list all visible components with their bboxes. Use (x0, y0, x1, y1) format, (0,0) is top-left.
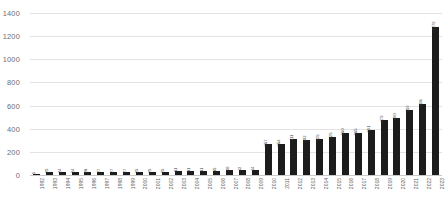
bar-wrapper: 490 (391, 118, 404, 175)
bar[interactable] (406, 110, 413, 175)
x-axis-label-cell: 1997 (94, 178, 107, 201)
x-axis-label-cell: 2012 (288, 178, 301, 201)
x-axis-label-cell: 1993 (43, 178, 56, 201)
bar-wrapper: 24 (56, 172, 69, 175)
bar[interactable] (393, 118, 400, 175)
bar-wrapper: 31 (197, 171, 210, 175)
x-axis-label-cell: 2013 (300, 178, 313, 201)
bar-wrapper: 264 (275, 144, 288, 175)
x-axis-label-cell: 2000 (133, 178, 146, 201)
bar[interactable] (265, 144, 272, 175)
bar-cell: 315 (313, 13, 326, 175)
bar-value-label: 264 (276, 140, 281, 147)
bar-wrapper: 44 (249, 170, 262, 175)
x-axis-label-cell: 2002 (159, 178, 172, 201)
x-axis-label-cell: 2006 (210, 178, 223, 201)
bar-cell: 44 (249, 13, 262, 175)
bar-wrapper: 365 (352, 133, 365, 175)
bar-cell: 27 (107, 13, 120, 175)
bar-wrapper: 360 (339, 133, 352, 175)
bar-wrapper: 311 (288, 139, 301, 175)
bars-container: 1252424282727272525253131313540424426726… (30, 13, 442, 175)
bar-value-label: 25 (44, 169, 49, 174)
x-axis-label-cell: 2020 (391, 178, 404, 201)
bar-wrapper: 25 (133, 172, 146, 175)
bar-value-label: 365 (353, 128, 358, 135)
bar[interactable] (368, 130, 375, 175)
bar[interactable] (432, 27, 439, 175)
bar-cell: 479 (378, 13, 391, 175)
x-axis-labels: 1992199319941995199619971998199920002001… (30, 178, 442, 201)
x-axis-label-cell: 2007 (223, 178, 236, 201)
bar-cell: 27 (94, 13, 107, 175)
bar-cell: 1 (30, 13, 43, 175)
y-axis-tick-label: 800 (0, 78, 20, 87)
x-axis-label-cell: 1998 (107, 178, 120, 201)
bar-value-label: 267 (263, 140, 268, 147)
bar[interactable] (303, 140, 310, 175)
bar-cell: 559 (403, 13, 416, 175)
bar-wrapper: 25 (43, 172, 56, 175)
bar-value-label: 302 (302, 136, 307, 143)
bar[interactable] (381, 120, 388, 175)
bar-value-label: 40 (225, 167, 230, 172)
bar-value-label: 311 (289, 135, 294, 142)
bar-wrapper: 27 (120, 172, 133, 175)
bar[interactable] (355, 133, 362, 175)
bar-cell: 264 (275, 13, 288, 175)
bar-cell: 618 (416, 13, 429, 175)
bar-value-label: 27 (96, 169, 101, 174)
bar-value-label: 27 (122, 169, 127, 174)
bar-value-label: 25 (160, 169, 165, 174)
x-axis-label-cell: 2017 (352, 178, 365, 201)
bar-wrapper: 267 (262, 144, 275, 175)
bar-value-label: 25 (147, 169, 152, 174)
bar-cell: 28 (82, 13, 95, 175)
bar[interactable] (329, 137, 336, 175)
bar-value-label: 1279 (431, 21, 436, 30)
bar-value-label: 479 (379, 115, 384, 122)
bar-value-label: 35 (212, 168, 217, 173)
bar-wrapper: 315 (313, 139, 326, 175)
bar-cell: 31 (185, 13, 198, 175)
bar-value-label: 44 (250, 167, 255, 172)
bar-wrapper: 40 (223, 170, 236, 175)
bar-wrapper: 31 (185, 171, 198, 175)
bar-wrapper: 31 (172, 171, 185, 175)
bar-cell: 302 (300, 13, 313, 175)
x-axis-label-cell: 1994 (56, 178, 69, 201)
bar-wrapper: 28 (82, 172, 95, 175)
bar-cell: 391 (365, 13, 378, 175)
bar-cell: 365 (352, 13, 365, 175)
bar-wrapper: 27 (107, 172, 120, 175)
bar-value-label: 24 (57, 169, 62, 174)
x-axis-label-cell: 2016 (339, 178, 352, 201)
bar-cell: 24 (69, 13, 82, 175)
x-axis-label-cell: 2003 (172, 178, 185, 201)
bar-cell: 42 (236, 13, 249, 175)
bar-wrapper: 25 (159, 172, 172, 175)
x-axis-label-cell: 2014 (313, 178, 326, 201)
bar[interactable] (278, 144, 285, 175)
x-axis-label-cell: 2022 (416, 178, 429, 201)
bar-wrapper: 35 (210, 171, 223, 175)
bar-value-label: 31 (186, 168, 191, 173)
plot-area: 0200400600800100012001400 12524242827272… (30, 13, 442, 175)
x-axis-label-cell: 2011 (275, 178, 288, 201)
y-axis-tick-label: 1200 (0, 32, 20, 41)
x-axis-label-cell: 2009 (249, 178, 262, 201)
bar-wrapper: 302 (300, 140, 313, 175)
bar[interactable] (342, 133, 349, 175)
bar[interactable] (290, 139, 297, 175)
y-axis-tick-label: 1400 (0, 9, 20, 18)
x-axis-tick-label: 2023 (439, 178, 445, 189)
bar-wrapper: 391 (365, 130, 378, 175)
bar[interactable] (316, 139, 323, 175)
bar-wrapper: 1279 (429, 27, 442, 175)
bar-value-label: 490 (392, 114, 397, 121)
x-axis-label-cell: 2004 (185, 178, 198, 201)
bar[interactable] (419, 104, 426, 176)
bar-value-label: 24 (70, 169, 75, 174)
bar-cell: 31 (197, 13, 210, 175)
bar-wrapper: 479 (378, 120, 391, 175)
